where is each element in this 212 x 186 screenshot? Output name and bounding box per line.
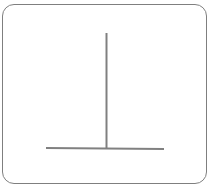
perpendicular-symbol	[0, 0, 212, 186]
horizontal-line	[46, 148, 164, 149]
